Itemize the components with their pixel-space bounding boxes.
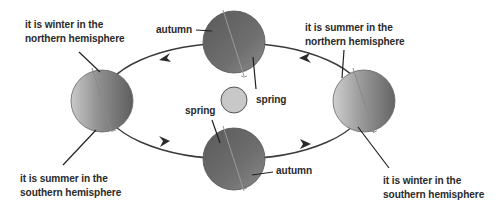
label-line: spring [185,103,215,117]
earth-globe-bottom-icon [203,126,265,191]
label-summer-southern-left: it is summer in the southern hemisphere [20,171,121,199]
label-spring-bottom: spring [185,103,215,117]
earth-globe-top-icon [203,10,265,77]
orbit-arrow-bottom-left-icon [159,136,170,147]
label-line: it is summer in the [305,20,405,34]
earth-globe-left-icon [71,68,133,132]
label-line: northern hemisphere [305,34,405,48]
label-line: southern hemisphere [20,185,121,199]
leader-line-left-top [79,52,100,72]
label-autumn-bottom: autumn [276,163,312,177]
label-line: autumn [156,22,192,36]
label-line: it is winter in the [383,173,484,187]
label-line: southern hemisphere [383,187,484,201]
label-winter-southern-right: it is winter in the southern hemisphere [383,173,484,201]
label-line: autumn [276,163,312,177]
label-autumn-top: autumn [156,22,192,36]
orbit-arrow-bottom-right-icon [300,139,311,149]
orbit-arrow-top-left-icon [159,53,171,62]
sun-icon [221,87,247,113]
earth-orbit-seasons-diagram: it is winter in the northern hemisphere … [0,0,504,211]
label-summer-northern-right: it is summer in the northern hemisphere [305,20,405,48]
label-line: it is winter in the [25,17,125,31]
leader-line-right-bottom [358,127,389,168]
label-winter-northern-left: it is winter in the northern hemisphere [25,17,125,45]
leader-line-left-bottom [63,130,96,165]
orbit-arrow-top-right-icon [299,53,311,63]
label-line: northern hemisphere [25,31,125,45]
label-spring-top: spring [256,92,286,106]
label-line: spring [256,92,286,106]
label-line: it is summer in the [20,171,121,185]
leader-line-right-top [342,50,344,78]
